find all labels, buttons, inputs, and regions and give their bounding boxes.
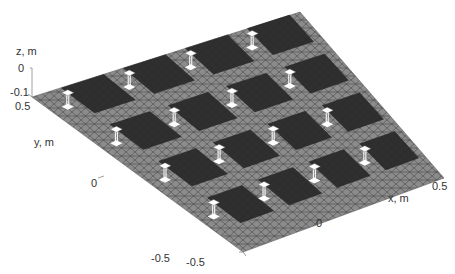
- x-tick-right: 0.5: [432, 180, 447, 192]
- z-axis-label: z, m: [16, 45, 37, 57]
- x-tick-mid: 0: [316, 217, 322, 229]
- z-tick-0: 0: [18, 62, 24, 74]
- y-axis-label: y, m: [34, 136, 54, 148]
- x-tick-left: -0.5: [186, 256, 205, 268]
- x-axis-label: x, m: [388, 192, 409, 204]
- y-tick-top: 0.5: [15, 100, 30, 112]
- z-tick-neg: -0.1: [10, 86, 29, 98]
- 3d-plot-canvas: [0, 0, 455, 274]
- y-tick-bottom: -0.5: [151, 252, 170, 264]
- y-tick-mid: 0: [91, 177, 97, 189]
